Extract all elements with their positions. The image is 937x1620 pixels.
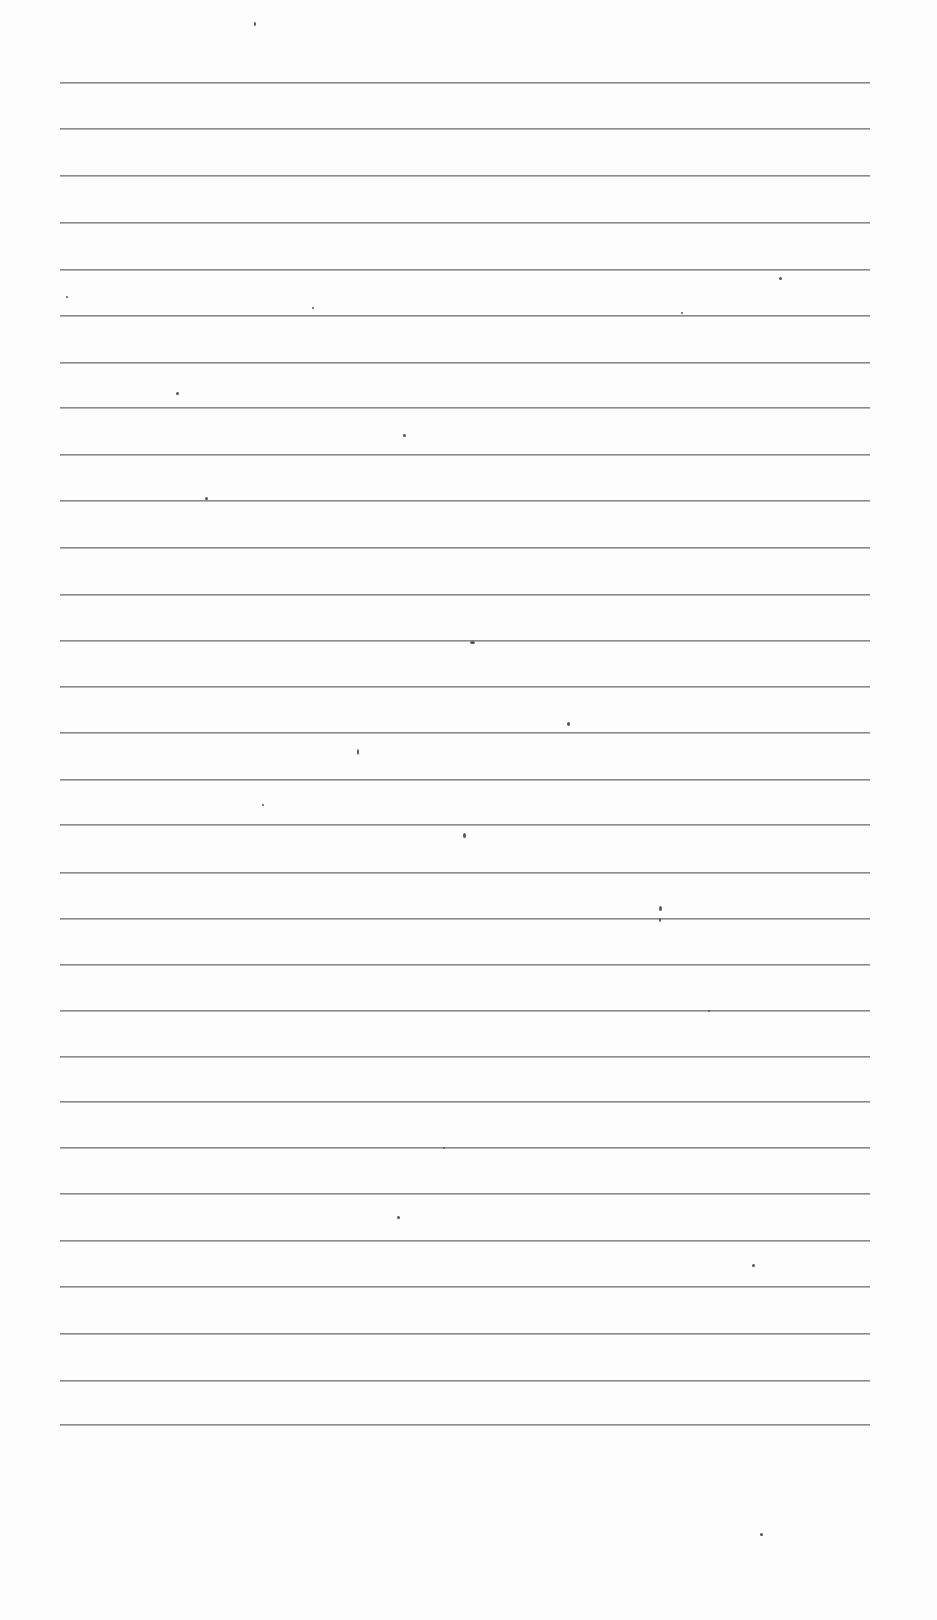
ruled-line <box>60 1286 870 1288</box>
scan-speck <box>708 1010 710 1012</box>
ruled-line <box>60 824 870 826</box>
ruled-line <box>60 1380 870 1382</box>
ruled-line <box>60 1147 870 1149</box>
ruled-line <box>60 918 870 920</box>
scan-speck <box>397 1216 400 1219</box>
ruled-line <box>60 315 870 317</box>
scan-speck <box>176 392 179 395</box>
scan-speck <box>254 22 256 26</box>
lined-paper-page <box>0 0 937 1620</box>
scan-speck <box>463 833 466 838</box>
scan-speck <box>403 434 406 437</box>
scan-speck <box>66 296 68 298</box>
ruled-line <box>60 500 870 502</box>
ruled-line <box>60 222 870 224</box>
ruled-line <box>60 686 870 688</box>
ruled-line <box>60 362 870 364</box>
ruled-line <box>60 547 870 549</box>
scan-speck <box>205 497 208 500</box>
scan-speck <box>470 641 475 644</box>
ruled-line <box>60 1333 870 1335</box>
scan-speck <box>659 918 661 922</box>
ruled-line <box>60 1010 870 1012</box>
ruled-line <box>60 175 870 177</box>
ruled-line <box>60 454 870 456</box>
ruled-line <box>60 128 870 130</box>
ruled-line <box>60 82 870 84</box>
ruled-line <box>60 1240 870 1242</box>
ruled-line <box>60 779 870 781</box>
scan-speck <box>760 1533 763 1536</box>
ruled-line <box>60 269 870 271</box>
ruled-line <box>60 732 870 734</box>
scan-speck <box>752 1264 755 1267</box>
scan-speck <box>567 722 570 726</box>
ruled-line <box>60 1056 870 1058</box>
scan-speck <box>262 804 264 806</box>
scan-speck <box>659 906 662 911</box>
scan-speck <box>443 1147 445 1149</box>
scan-speck <box>357 749 359 755</box>
ruled-line <box>60 1193 870 1195</box>
ruled-line <box>60 872 870 874</box>
ruled-line <box>60 1424 870 1426</box>
scan-speck <box>779 277 782 280</box>
scan-speck <box>312 307 314 309</box>
ruled-line <box>60 1101 870 1103</box>
ruled-line <box>60 640 870 642</box>
ruled-line <box>60 407 870 409</box>
scan-speck <box>681 312 683 314</box>
ruled-line <box>60 964 870 966</box>
ruled-line <box>60 594 870 596</box>
